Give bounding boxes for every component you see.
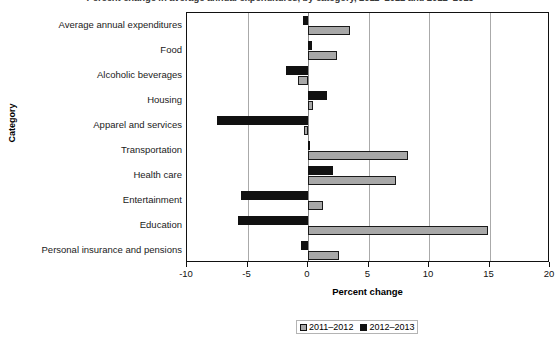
bar (308, 251, 339, 260)
bar (286, 66, 308, 75)
gridline (429, 13, 430, 261)
category-label: Transportation (12, 145, 182, 155)
category-axis-labels: Average annual expendituresFoodAlcoholic… (12, 12, 182, 262)
bar (301, 241, 308, 250)
category-label: Entertainment (12, 195, 182, 205)
x-tickmark (368, 262, 369, 267)
category-label: Housing (12, 95, 182, 105)
bar (308, 151, 408, 160)
bar (238, 216, 308, 225)
x-tickmark (428, 262, 429, 267)
bar (303, 16, 308, 25)
chart-title: Percent change in average annual expendi… (0, 0, 560, 4)
bar (298, 76, 308, 85)
bar (308, 226, 488, 235)
legend-swatch-icon (300, 324, 307, 331)
bar (308, 41, 312, 50)
legend-swatch-icon (360, 324, 367, 331)
x-tickmark (186, 262, 187, 267)
plot-area (186, 12, 549, 262)
x-tickmark (307, 262, 308, 267)
x-tickmark (489, 262, 490, 267)
category-label: Average annual expenditures (12, 20, 182, 30)
x-tick-label: 10 (408, 268, 448, 279)
bar (308, 141, 310, 150)
x-tick-label: 5 (348, 268, 388, 279)
bar (308, 201, 323, 210)
x-tick-label: 15 (469, 268, 509, 279)
legend-label: 2012–2013 (369, 322, 414, 332)
bar (308, 176, 396, 185)
bar (308, 26, 350, 35)
bar (308, 101, 313, 110)
category-label: Education (12, 220, 182, 230)
bar (304, 126, 308, 135)
bar (308, 91, 327, 100)
x-tick-label: -5 (227, 268, 267, 279)
category-label: Apparel and services (12, 120, 182, 130)
legend-entry: 2011–2012 (300, 322, 353, 332)
category-label: Personal insurance and pensions (12, 245, 182, 255)
category-label: Alcoholic beverages (12, 70, 182, 80)
chart-legend: 2011–20122012–2013 (296, 320, 418, 334)
legend-label: 2011–2012 (309, 322, 353, 332)
bar (241, 191, 308, 200)
bar (308, 166, 333, 175)
gridline (490, 13, 491, 261)
x-tick-label: 0 (287, 268, 327, 279)
x-axis-tick-labels: -10-505101520 (186, 268, 549, 282)
x-tickmark (247, 262, 248, 267)
category-label: Health care (12, 170, 182, 180)
x-tickmark (549, 262, 550, 267)
bar (217, 116, 308, 125)
gridline (369, 13, 370, 261)
category-label: Food (12, 45, 182, 55)
x-axis-title: Percent change (186, 286, 549, 297)
legend-entry: 2012–2013 (360, 322, 414, 332)
x-tick-label: 20 (529, 268, 560, 279)
bar (308, 51, 337, 60)
x-tick-label: -10 (166, 268, 206, 279)
